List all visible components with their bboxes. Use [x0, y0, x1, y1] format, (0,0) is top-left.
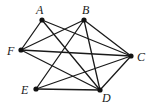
node-label-b: B	[82, 3, 90, 17]
node-label-e: E	[20, 83, 29, 97]
edges-group	[21, 20, 131, 90]
edge-a-d	[42, 20, 100, 90]
node-f	[18, 47, 23, 52]
node-a	[39, 17, 44, 22]
node-label-f: F	[6, 44, 15, 58]
node-label-a: A	[35, 3, 44, 17]
node-c	[128, 53, 133, 58]
graph-diagram: ABCDEF	[0, 0, 152, 108]
node-e	[33, 86, 38, 91]
node-label-d: D	[101, 91, 111, 105]
node-b	[81, 17, 86, 22]
edge-f-d	[21, 50, 100, 90]
edge-a-c	[42, 20, 131, 56]
edge-e-d	[36, 89, 100, 90]
node-label-c: C	[137, 50, 146, 64]
edge-f-c	[21, 50, 131, 56]
